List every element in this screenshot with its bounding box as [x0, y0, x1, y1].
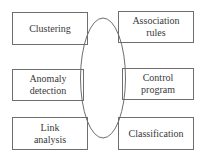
box-control-program: Control program	[122, 68, 194, 100]
box-label: Association rules	[132, 15, 179, 39]
box-link-analysis: Link analysis	[12, 117, 88, 150]
box-clustering: Clustering	[12, 12, 88, 45]
box-label: Link analysis	[34, 122, 66, 146]
data-mining-diagram: Clustering Association rules Anomaly det…	[0, 0, 205, 158]
box-label: Control program	[141, 72, 175, 96]
box-label: Clustering	[29, 23, 71, 35]
box-label: Classification	[129, 128, 184, 140]
box-association-rules: Association rules	[118, 11, 194, 43]
box-anomaly-detection: Anomaly detection	[12, 69, 84, 101]
box-classification: Classification	[118, 117, 194, 150]
box-label: Anomaly detection	[29, 73, 66, 97]
